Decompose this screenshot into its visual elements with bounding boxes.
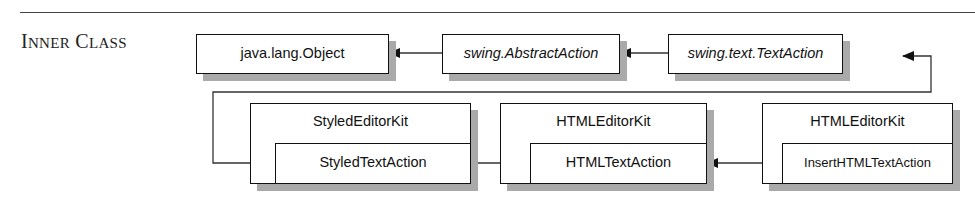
inner-class-styled-text-action: StyledTextAction: [275, 143, 470, 183]
class-box-text-action: swing.text.TextAction: [668, 34, 843, 74]
class-box-abstract-action: swing.AbstractAction: [442, 34, 620, 74]
class-box-html-editor-kit-2: HTMLEditorKit InsertHTMLTextAction: [762, 103, 953, 184]
class-box-object: java.lang.Object: [196, 34, 389, 74]
inner-class-html-text-action: HTMLTextAction: [530, 143, 706, 183]
class-box-styled-editor-kit: StyledEditorKit StyledTextAction: [250, 103, 471, 184]
class-box-html-editor-kit: HTMLEditorKit HTMLTextAction: [500, 103, 707, 184]
inner-class-insert-html-text-action: InsertHTMLTextAction: [782, 143, 952, 183]
